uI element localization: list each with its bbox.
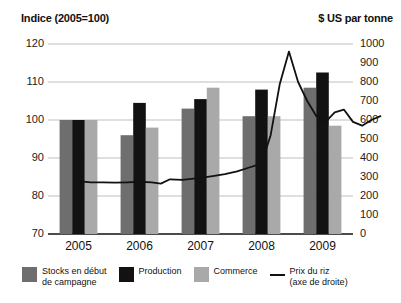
x-tick-2009: 2009 [293,239,353,253]
bar-2007-1 [182,109,195,234]
x-tick-2008: 2008 [232,239,292,253]
left-tick-110: 110 [4,76,44,87]
bar-2007-3 [207,88,220,234]
x-tick-2007: 2007 [171,239,231,253]
bar-2006-1 [121,135,134,234]
bar-2008-3 [268,116,281,234]
right-tick-700: 700 [360,95,400,106]
left-tick-100: 100 [4,114,44,125]
rice-market-chart: Indice (2005=100) $ US par tonne 7080901… [0,0,401,303]
left-tick-90: 90 [4,152,44,163]
bar-2006-2 [133,103,146,234]
left-tick-120: 120 [4,38,44,49]
right-tick-400: 400 [360,152,400,163]
bar-2009-3 [329,126,342,234]
square-swatch-icon [22,267,37,282]
right-tick-500: 500 [360,133,400,144]
x-tick-2005: 2005 [49,239,109,253]
left-tick-70: 70 [4,228,44,239]
legend-label-3: Commerce [214,266,258,277]
plot-area [48,44,353,234]
left-tick-80: 80 [4,190,44,201]
bar-2005-2 [72,120,85,234]
right-tick-800: 800 [360,76,400,87]
line-swatch-icon [270,267,285,282]
right-axis-title: $ US par tonne [318,12,393,24]
bar-2009-1 [304,88,317,234]
right-tick-1000: 1000 [360,38,400,49]
right-tick-200: 200 [360,190,400,201]
bar-2005-3 [85,120,98,234]
bar-2006-3 [146,128,159,234]
square-swatch-icon [119,267,134,282]
right-tick-900: 900 [360,57,400,68]
square-swatch-icon [194,267,209,282]
legend-item-1[interactable]: Stocks en début de campagne [22,266,107,288]
bar-2005-1 [60,120,73,234]
legend-label-2: Production [139,266,182,277]
bar-2009-2 [316,73,329,235]
bar-2007-2 [194,99,207,234]
legend-item-4[interactable]: Prix du riz (axe de droite) [270,266,348,288]
legend-item-2[interactable]: Production [119,266,182,282]
legend-item-3[interactable]: Commerce [194,266,258,282]
left-axis-title: Indice (2005=100) [21,12,109,24]
legend-label-4: Prix du riz (axe de droite) [290,266,348,288]
bar-2008-1 [243,116,256,234]
right-tick-0: 0 [360,228,400,239]
chart-legend: Stocks en début de campagneProductionCom… [22,266,392,288]
legend-label-1: Stocks en début de campagne [42,266,107,288]
right-tick-300: 300 [360,171,400,182]
x-tick-2006: 2006 [110,239,170,253]
right-tick-100: 100 [360,209,400,220]
plot-svg [48,44,353,234]
